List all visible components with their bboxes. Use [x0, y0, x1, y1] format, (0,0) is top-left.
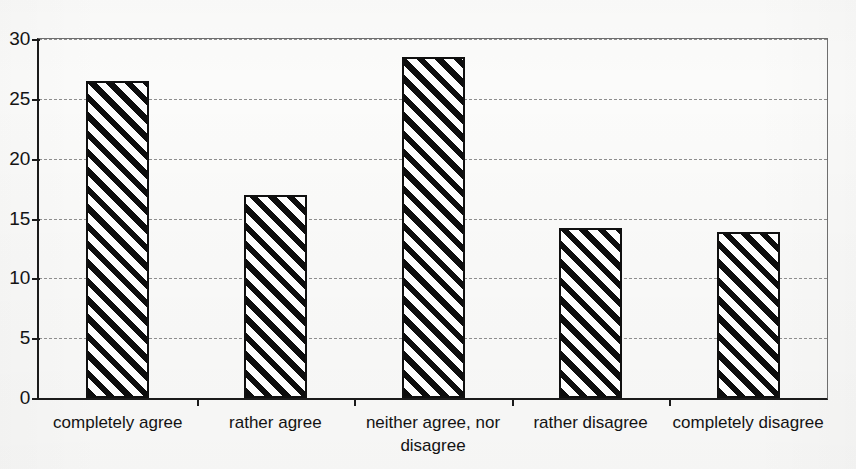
- y-axis-tick-label: 0: [20, 387, 30, 409]
- y-axis-tick-mark: [32, 159, 40, 161]
- y-axis-tick-mark: [32, 219, 40, 221]
- y-axis-tick-label: 25: [9, 88, 30, 110]
- bar: [559, 228, 622, 398]
- y-axis-tick-mark: [32, 338, 40, 340]
- y-axis-tick-mark: [32, 398, 40, 400]
- y-axis-tick-label: 15: [9, 208, 30, 230]
- chart-screenshot: 051015202530completely agreerather agree…: [0, 0, 856, 469]
- bar: [244, 195, 307, 398]
- y-axis-tick-mark: [32, 278, 40, 280]
- x-axis-tick-mark: [197, 398, 199, 406]
- y-axis-tick-label: 10: [9, 267, 30, 289]
- y-axis-tick-mark: [32, 39, 40, 41]
- y-gridline: [39, 39, 827, 40]
- x-axis-category-label: completely disagree: [653, 411, 843, 434]
- bar: [86, 81, 149, 398]
- plot-area: 051015202530completely agreerather agree…: [37, 38, 828, 400]
- y-axis-tick-label: 30: [9, 28, 30, 50]
- y-axis-tick-mark: [32, 99, 40, 101]
- bar: [402, 57, 465, 398]
- y-axis-tick-label: 20: [9, 148, 30, 170]
- x-axis-tick-mark: [669, 398, 671, 406]
- y-axis-tick-label: 5: [20, 327, 30, 349]
- bar: [717, 232, 780, 398]
- x-axis-tick-mark: [354, 398, 356, 406]
- x-axis-tick-mark: [512, 398, 514, 406]
